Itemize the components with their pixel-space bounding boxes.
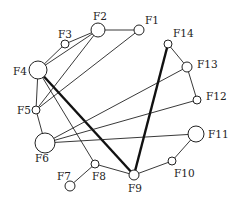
network-graph: F1F2F3F4F5F6F7F8F9F10F11F12F13F14 [0, 0, 235, 206]
node-label-f1: F1 [145, 14, 159, 26]
node-label-f5: F5 [17, 104, 31, 116]
node-label-f14: F14 [173, 27, 194, 39]
node-label-f9: F9 [128, 182, 142, 194]
node-label-f10: F10 [174, 167, 195, 179]
node-f3 [61, 40, 69, 48]
node-label-f7: F7 [57, 170, 71, 182]
nodes-layer [29, 23, 204, 191]
edge-f6-f11 [45, 134, 196, 143]
node-f11 [188, 126, 204, 142]
node-f12 [193, 96, 201, 104]
node-label-f6: F6 [35, 152, 49, 164]
node-f8 [91, 160, 99, 168]
node-f5 [32, 106, 40, 114]
node-label-f3: F3 [58, 28, 72, 40]
node-label-f8: F8 [92, 170, 106, 182]
node-f9 [129, 170, 139, 180]
node-label-f2: F2 [93, 10, 107, 22]
edge-f9-f10 [134, 161, 172, 175]
node-f1 [134, 25, 144, 35]
node-label-f11: F11 [208, 128, 229, 140]
edge-f6-f13 [45, 67, 187, 143]
node-label-f12: F12 [206, 90, 227, 102]
edge-f4-f9 [38, 70, 134, 175]
node-label-f13: F13 [197, 58, 218, 70]
node-f6 [35, 133, 55, 153]
node-f10 [168, 157, 176, 165]
node-f2 [91, 23, 105, 37]
node-f14 [164, 40, 172, 48]
node-f4 [29, 61, 47, 79]
edge-f6-f12 [45, 100, 197, 143]
node-f7 [65, 181, 75, 191]
node-label-f4: F4 [13, 65, 27, 77]
edge-f1-f5 [36, 30, 139, 110]
node-f13 [182, 62, 192, 72]
